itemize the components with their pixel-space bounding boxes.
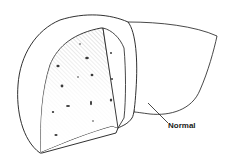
right-lobe <box>128 22 217 114</box>
liver-illustration <box>0 0 232 159</box>
liver-diagram: Normal <box>0 0 232 159</box>
normal-label: Normal <box>168 121 196 130</box>
